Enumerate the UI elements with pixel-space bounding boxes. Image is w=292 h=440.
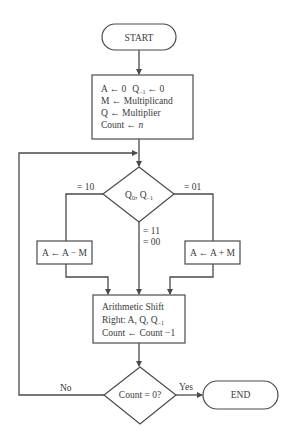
connector-branch-10 — [66, 194, 103, 241]
decision-count-zero: Count = 0? — [104, 367, 176, 424]
shift-box: Arithmetic Shift Right: A, Q, Q−1 Count … — [93, 295, 185, 343]
init-box: A ← 0Q−1← 0 M ← Multiplicand Q ← Multipl… — [92, 75, 193, 139]
branch-10-label: = 10 — [77, 182, 94, 192]
end-label: END — [231, 390, 251, 400]
yes-label: Yes — [179, 382, 193, 392]
connector-subtract-shift — [66, 264, 108, 294]
booth-flowchart: START A ← 0Q−1← 0 M ← Multiplicand Q ← M… — [0, 0, 292, 440]
init-line-3: Q ← Multiplier — [101, 108, 161, 118]
decision-count-zero-label: Count = 0? — [119, 390, 161, 400]
branch-11-label: = 11 — [143, 226, 160, 236]
end-terminal: END — [203, 381, 278, 409]
branch-00-label: = 00 — [143, 237, 160, 247]
init-line-2: M ← Multiplicand — [101, 96, 173, 106]
connector-branch-01 — [174, 194, 213, 241]
init-line-4: Count ← n — [101, 120, 143, 130]
start-terminal: START — [102, 24, 176, 50]
decision-q0-qm1: Q0, Q−1 — [103, 167, 174, 222]
init-line-1: A ← 0Q−1← 0 — [101, 84, 164, 95]
shift-line-1: Arithmetic Shift — [102, 302, 164, 312]
connector-add-shift — [170, 264, 213, 294]
subtract-box: A ← A − M — [37, 241, 92, 264]
no-label: No — [60, 383, 72, 393]
branch-01-label: = 01 — [184, 182, 201, 192]
add-label: A ← A + M — [190, 248, 236, 258]
shift-line-3: Count ← Count −1 — [102, 328, 175, 338]
add-box: A ← A + M — [185, 241, 240, 264]
start-label: START — [125, 33, 154, 43]
subtract-label: A ← A − M — [42, 248, 88, 258]
shift-line-2: Right: A, Q, Q−1 — [102, 315, 164, 326]
